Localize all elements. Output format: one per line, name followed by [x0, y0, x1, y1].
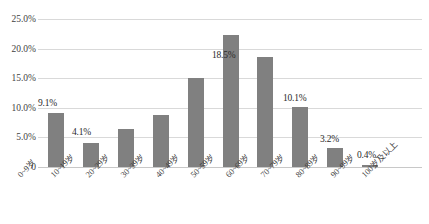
bar-value-label: 9.1%	[38, 98, 57, 108]
plot-area	[38, 19, 422, 167]
y-axis-tick-label: 25.0%	[0, 14, 36, 24]
bar-value-label: 3.2%	[320, 134, 339, 144]
x-axis-category-label: 0~9岁	[14, 156, 38, 180]
bar	[257, 57, 273, 167]
y-axis-tick-label: 20.0%	[0, 44, 36, 54]
bar-value-label: 10.1%	[283, 93, 307, 103]
y-axis-tick-label: 15.0%	[0, 73, 36, 83]
bar-chart: 25.0% 20.0% 15.0% 10.0% 5.0% 0 9.1% 4.1%…	[0, 0, 429, 224]
bar-value-label: 18.5%	[212, 50, 236, 60]
y-axis-tick-label: 5.0%	[0, 132, 36, 142]
bar-value-label: 4.1%	[72, 127, 91, 137]
bar	[188, 78, 204, 167]
y-axis-tick-label: 10.0%	[0, 103, 36, 113]
